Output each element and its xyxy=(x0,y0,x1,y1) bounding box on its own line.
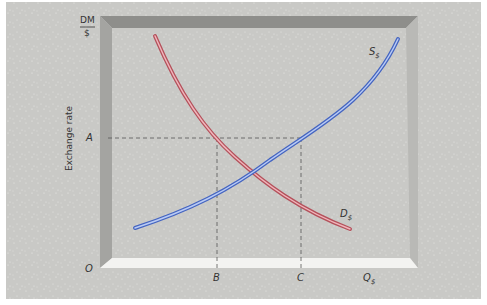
x-tick-c: C xyxy=(297,273,304,283)
frame-top xyxy=(100,16,418,28)
origin-label: O xyxy=(85,264,93,274)
y-tick-a: A xyxy=(86,133,93,143)
unit-denominator: $ xyxy=(84,29,90,38)
frame-left xyxy=(100,16,112,268)
demand-label: D$ xyxy=(340,209,352,222)
x-axis-label-sub: $ xyxy=(371,278,375,286)
y-axis-label: Exchange rate xyxy=(65,104,74,174)
x-axis-label: Q$ xyxy=(363,273,375,286)
frame-bottom xyxy=(100,258,418,268)
supply-label: S$ xyxy=(369,47,380,60)
unit-numerator: DM xyxy=(80,16,95,25)
demand-label-main: D xyxy=(340,208,348,219)
x-axis-label-main: Q xyxy=(363,272,371,283)
demand-label-sub: $ xyxy=(348,214,352,222)
supply-label-sub: $ xyxy=(375,52,379,60)
x-tick-b: B xyxy=(213,273,220,283)
